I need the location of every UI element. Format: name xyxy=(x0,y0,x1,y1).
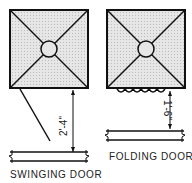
fixture-circle-icon xyxy=(138,41,154,57)
dimension-line-left xyxy=(71,90,75,152)
closet-box-right xyxy=(107,10,185,88)
door-clearance-diagram: 2'-4" SWINGING DOOR 1'-6" FO xyxy=(0,0,192,183)
folding-door-label: FOLDING DOOR xyxy=(109,151,192,162)
dimension-label-swinging: 2'-4" xyxy=(58,116,69,136)
wall-section-left xyxy=(9,150,89,163)
folding-door-panels xyxy=(117,89,165,92)
swinging-door-label: SWINGING DOOR xyxy=(10,169,102,180)
dimension-label-folding: 1'-6" xyxy=(162,100,173,120)
wall-section-right xyxy=(105,129,185,142)
fixture-circle-icon xyxy=(41,41,57,57)
swinging-door-leaf xyxy=(20,89,50,141)
swinging-door-diagram: 2'-4" SWINGING DOOR xyxy=(9,10,102,180)
folding-door-diagram: 1'-6" FOLDING DOOR xyxy=(105,10,192,162)
closet-box-left xyxy=(10,10,88,88)
